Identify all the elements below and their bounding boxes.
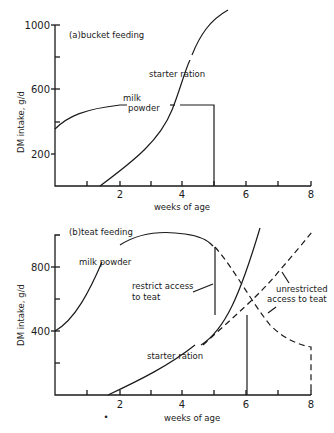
- milk-powder-label: milk powder: [79, 257, 132, 267]
- y-tick-800: 800: [31, 262, 50, 273]
- unrestricted-label-line1: unrestricted: [276, 284, 328, 294]
- starter-ration-label: starter ration: [147, 351, 203, 361]
- y-tick-400: 400: [31, 326, 50, 337]
- x-tick-6: 6: [243, 189, 249, 200]
- figure: 1000 600 200 2 4 6 8 DM intake, g/d week…: [0, 0, 334, 433]
- x-tick-4: 4: [179, 189, 185, 200]
- unrestricted-label-line2: access to teat: [267, 294, 327, 304]
- stray-bullet: •: [103, 412, 108, 422]
- y-axis-label: DM intake, g/d: [16, 91, 26, 153]
- x-tick-8: 8: [308, 399, 314, 410]
- restrict-label-pointer: [193, 284, 213, 292]
- starter-ration-label: starter ration: [149, 69, 205, 79]
- y-tick-200: 200: [31, 149, 50, 160]
- x-tick-8: 8: [308, 189, 314, 200]
- milk-powder-line-upper: [120, 233, 213, 246]
- milk-powder-line: [55, 105, 127, 129]
- x-tick-2: 2: [117, 399, 123, 410]
- chart-bucket-feeding: 1000 600 200 2 4 6 8 DM intake, g/d week…: [16, 10, 314, 212]
- milk-powder-cutoff: [180, 105, 214, 186]
- unrestricted-pointer-upper: [282, 272, 289, 283]
- x-tick-6: 6: [243, 399, 249, 410]
- restrict-label-line1: restrict access: [132, 281, 194, 291]
- starter-ration-line-upper: [201, 228, 260, 345]
- y-axis-label: DM intake, g/d: [16, 284, 26, 346]
- chart-title: (a)bucket feeding: [69, 30, 144, 40]
- x-axis-label: weeks of age: [154, 202, 210, 212]
- restrict-label-line2: to teat: [132, 292, 161, 302]
- chart-title: (b)teat feeding: [69, 227, 133, 237]
- x-tick-2: 2: [117, 189, 123, 200]
- unrestricted-pointer-lower: [268, 307, 276, 313]
- milk-label-line2: powder: [128, 103, 160, 113]
- y-tick-1000: 1000: [25, 20, 50, 31]
- chart-teat-feeding: 800 400 2 4 6 8 DM intake, g/d weeks of …: [16, 227, 328, 423]
- x-tick-4: 4: [179, 399, 185, 410]
- milk-powder-line-lower: [55, 262, 102, 331]
- milk-label-line1: milk: [123, 93, 141, 103]
- x-axis-label: weeks of age: [164, 413, 220, 423]
- y-tick-600: 600: [31, 84, 50, 95]
